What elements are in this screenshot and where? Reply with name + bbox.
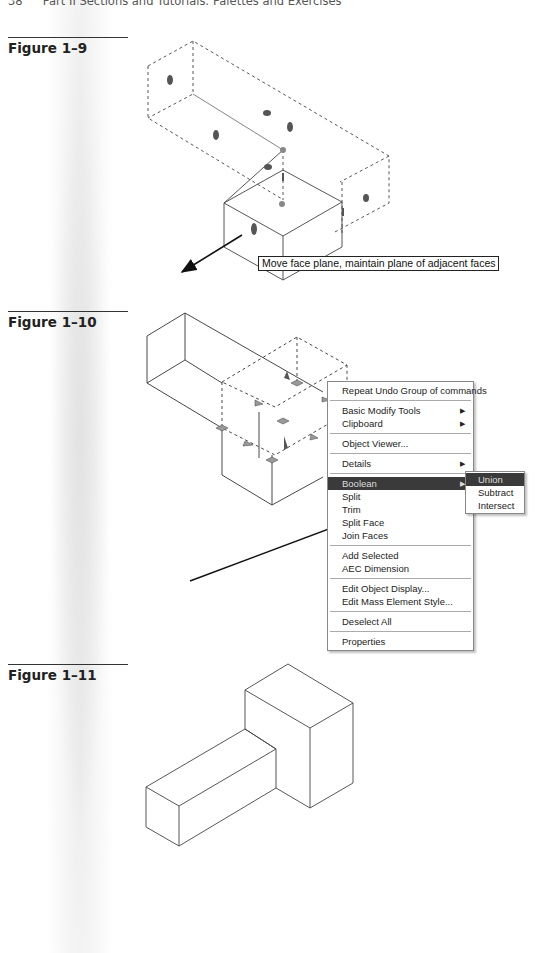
menu-separator [330, 545, 471, 546]
menu-item-label: Object Viewer... [342, 438, 408, 449]
menu-item-label: Clipboard [342, 418, 383, 429]
figure-1-11-drawing [146, 664, 353, 846]
menu-separator [330, 631, 471, 632]
menu-item-deselect-all[interactable]: Deselect All [328, 615, 473, 628]
menu-item-trim[interactable]: Trim [328, 503, 473, 516]
menu-item-boolean[interactable]: Boolean▶ [328, 477, 473, 490]
submenu-item-intersect[interactable]: Intersect [466, 499, 524, 512]
submenu-item-subtract[interactable]: Subtract [466, 486, 524, 499]
menu-item-label: Edit Object Display... [342, 583, 429, 594]
menu-item-label: Boolean [342, 478, 377, 489]
menu-separator [330, 611, 471, 612]
menu-item-label: AEC Dimension [342, 563, 409, 574]
figure-1-9-drawing [148, 41, 389, 280]
menu-item-label: Edit Mass Element Style... [342, 596, 453, 607]
menu-item-split-face[interactable]: Split Face [328, 516, 473, 529]
menu-item-label: Details [342, 458, 371, 469]
menu-item-basic-modify-tools[interactable]: Basic Modify Tools▶ [328, 404, 473, 417]
submenu-arrow-icon: ▶ [460, 417, 465, 430]
menu-item-label: Trim [342, 504, 361, 515]
menu-item-label: Repeat Undo Group of commands [342, 385, 487, 396]
menu-item-split[interactable]: Split [328, 490, 473, 503]
submenu-item-union[interactable]: Union [466, 473, 524, 486]
menu-item-aec-dimension[interactable]: AEC Dimension [328, 562, 473, 575]
menu-item-label: Basic Modify Tools [342, 405, 421, 416]
menu-separator [330, 433, 471, 434]
menu-separator [330, 473, 471, 474]
submenu-arrow-icon: ▶ [460, 457, 465, 470]
menu-item-label: Deselect All [342, 616, 392, 627]
menu-item-label: Properties [342, 636, 385, 647]
menu-item-label: Split Face [342, 517, 384, 528]
menu-item-edit-mass-element-style[interactable]: Edit Mass Element Style... [328, 595, 473, 608]
menu-separator [330, 453, 471, 454]
menu-item-add-selected[interactable]: Add Selected [328, 549, 473, 562]
menu-item-label: Add Selected [342, 550, 399, 561]
menu-item-object-viewer[interactable]: Object Viewer... [328, 437, 473, 450]
boolean-submenu[interactable]: UnionSubtractIntersect [465, 471, 525, 514]
menu-separator [330, 400, 471, 401]
menu-item-label: Join Faces [342, 530, 388, 541]
menu-item-label: Split [342, 491, 360, 502]
menu-item-clipboard[interactable]: Clipboard▶ [328, 417, 473, 430]
menu-item-properties[interactable]: Properties [328, 635, 473, 648]
submenu-arrow-icon: ▶ [460, 404, 465, 417]
context-menu[interactable]: Repeat Undo Group of commandsBasic Modif… [327, 381, 474, 651]
menu-item-edit-object-display[interactable]: Edit Object Display... [328, 582, 473, 595]
menu-item-join-faces[interactable]: Join Faces [328, 529, 473, 542]
menu-item-repeat-undo-group-of-commands[interactable]: Repeat Undo Group of commands [328, 384, 473, 397]
menu-separator [330, 578, 471, 579]
tooltip: Move face plane, maintain plane of adjac… [258, 256, 499, 271]
menu-item-details[interactable]: Details▶ [328, 457, 473, 470]
